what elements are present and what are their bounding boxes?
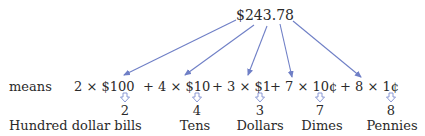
label-pennies: Pennies <box>366 119 417 133</box>
count-dollars: 3 <box>256 104 264 118</box>
label-dimes: Dimes <box>301 119 342 133</box>
connector-arrows <box>0 0 425 136</box>
count-dimes: 7 <box>316 104 324 118</box>
arrow-to-hundreds <box>124 20 236 75</box>
down-arrow-icon <box>193 93 202 102</box>
arrow-to-pennies <box>293 21 361 77</box>
total-amount: $243.78 <box>236 8 294 22</box>
term-dollars: + 3 × $1 <box>212 80 271 94</box>
arrow-to-dimes <box>280 24 292 77</box>
term-hundreds: 2 × $100 <box>74 80 135 94</box>
count-hundreds: 2 <box>121 104 129 118</box>
count-pennies: 8 <box>387 104 395 118</box>
term-tens: + 4 × $10 <box>143 80 210 94</box>
down-arrow-icon <box>121 93 130 102</box>
count-tens: 4 <box>193 104 201 118</box>
down-arrow-icon <box>387 93 396 102</box>
label-hundred-dollar-bills: Hundred dollar bills <box>9 119 142 133</box>
down-arrow-icon <box>256 93 265 102</box>
arrow-to-dollars <box>248 26 267 75</box>
term-dimes: + 7 × 10¢ <box>270 80 337 94</box>
down-arrow-icon <box>316 93 325 102</box>
label-tens: Tens <box>180 119 210 133</box>
term-pennies: + 8 × 1¢ <box>340 80 399 94</box>
means-label: means <box>9 80 52 94</box>
arrow-to-tens <box>185 25 254 75</box>
label-dollars: Dollars <box>236 119 283 133</box>
